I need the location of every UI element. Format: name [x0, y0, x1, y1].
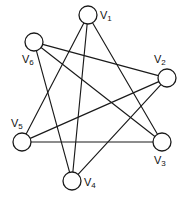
graph-edge-v1-v3: [93, 23, 158, 134]
graph-vertex-v6: [25, 33, 43, 51]
graph-vertex-label-v4: V4: [84, 176, 96, 190]
graph-vertex-label-v1: V1: [100, 9, 112, 23]
edges-group: [26, 23, 161, 175]
graph-vertex-v5: [13, 133, 31, 151]
graph-vertex-label-v5: V5: [11, 117, 23, 131]
graph-edge-v6-v4: [36, 51, 69, 173]
graph-figure: V1V2V3V4V5V6: [0, 0, 188, 201]
graph-vertex-v4: [63, 172, 81, 190]
nodes-group: [13, 6, 176, 190]
graph-edge-v6-v3: [41, 48, 155, 137]
graph-vertex-label-v2: V2: [154, 53, 166, 67]
graph-vertex-v1: [79, 6, 97, 24]
graph-edge-v1-v4: [73, 24, 87, 172]
graph-edge-v6-v2: [43, 44, 159, 75]
graph-vertex-label-v3: V3: [154, 154, 166, 168]
graph-canvas: V1V2V3V4V5V6: [0, 0, 188, 201]
graph-vertex-label-v6: V6: [22, 53, 34, 67]
graph-vertex-v3: [153, 133, 171, 151]
graph-vertex-v2: [158, 69, 176, 87]
graph-edge-v4-v2: [78, 85, 161, 175]
